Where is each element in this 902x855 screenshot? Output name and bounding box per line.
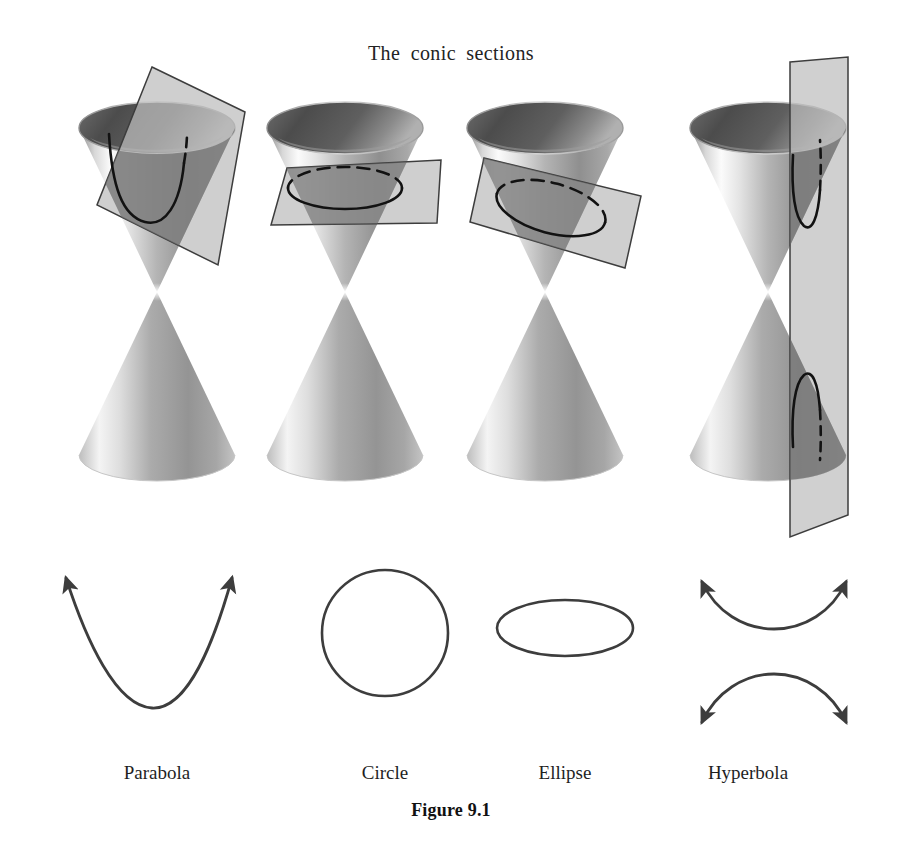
page-title: The conic sections [0,42,902,65]
curve-parabola [66,578,232,708]
section-curve-parabola [109,133,187,223]
section-curve-circle [288,167,402,209]
cone-upper-nappe-ellipse [467,102,623,292]
conic-label-parabola: Parabola [57,762,257,784]
cone-circle [267,102,441,481]
cone-lower-nappe-hyperbola [690,292,846,481]
figure-caption: Figure 9.1 [0,800,902,821]
cone-upper-nappe-hyperbola [690,102,846,292]
cone-upper-nappe-parabola [79,102,235,292]
section-curve-hyperbola-upper [792,140,820,227]
panel-parabola-cone-diagram [0,0,902,855]
cutting-plane-hyperbola [790,57,848,537]
cone-lower-nappe-ellipse [467,292,623,481]
section-curve-ellipse [490,169,611,246]
curve-ellipse [497,600,633,656]
section-curve-hyperbola-lower [792,374,820,460]
conic-label-hyperbola: Hyperbola [648,762,848,784]
cone-hyperbola [690,57,848,537]
cutting-plane-parabola [97,67,245,265]
conic-label-ellipse: Ellipse [465,762,665,784]
cone-upper-nappe-circle [267,102,423,292]
curve-circle [322,570,448,696]
curve-hyperbola [702,582,846,722]
cone-parabola [79,67,245,481]
cutting-plane-ellipse [470,158,641,268]
conic-label-circle: Circle [285,762,485,784]
cone-lower-nappe-circle [267,292,423,481]
conic-sections-figure: The conic sections [0,0,902,855]
cone-lower-nappe-parabola [79,292,235,481]
cutting-plane-circle [271,160,441,225]
cone-ellipse [467,102,641,481]
